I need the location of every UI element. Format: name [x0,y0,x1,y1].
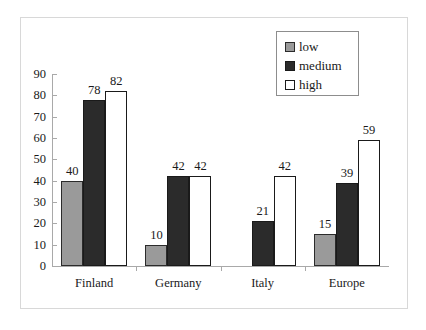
bar-value-label-finland-low: 40 [53,165,91,178]
bar-finland-medium [83,100,105,266]
bar-italy-high [274,176,296,266]
y-tick-label-50: 50 [22,153,46,166]
bar-value-label-finland-high: 82 [97,75,135,88]
bar-value-label-europe-low: 15 [306,218,344,231]
bar-chart-plot-area: 0102030405060708090 40788210424221421539… [0,0,426,330]
x-separator-tick-2 [221,266,222,271]
bar-value-label-germany-high: 42 [181,160,219,173]
bar-italy-medium [252,221,274,266]
legend-label-high: high [299,78,322,91]
bar-value-label-europe-medium: 39 [328,167,366,180]
category-label-germany: Germany [136,277,220,290]
y-tick-label-40: 40 [22,175,46,188]
bar-value-label-germany-low: 10 [137,229,175,242]
y-tick-label-90: 90 [22,68,46,81]
x-separator-tick-3 [305,266,306,271]
y-tick-80 [52,95,57,96]
y-tick-60 [52,138,57,139]
bar-germany-high [189,176,211,266]
y-tick-label-60: 60 [22,132,46,145]
y-tick-40 [52,181,57,182]
legend-label-medium: medium [299,59,342,72]
legend-item-low: low [285,37,358,56]
bar-value-label-italy-high: 42 [266,160,304,173]
bar-germany-medium [167,176,189,266]
bar-finland-high [105,91,127,266]
legend-item-high: high [285,75,358,94]
legend-label-low: low [299,40,319,53]
bar-value-label-italy-medium: 21 [244,205,282,218]
y-tick-30 [52,202,57,203]
y-tick-label-70: 70 [22,111,46,124]
y-tick-label-0: 0 [22,260,46,273]
x-separator-tick-1 [136,266,137,271]
y-tick-label-30: 30 [22,196,46,209]
bar-germany-low [145,245,167,266]
y-tick-10 [52,245,57,246]
high-swatch-icon [285,80,295,90]
low-swatch-icon [285,42,295,52]
y-tick-label-80: 80 [22,89,46,102]
y-tick-label-10: 10 [22,239,46,252]
bar-europe-low [314,234,336,266]
bar-value-label-europe-high: 59 [350,124,388,137]
y-tick-70 [52,117,57,118]
y-tick-50 [52,159,57,160]
y-tick-20 [52,223,57,224]
y-tick-label-20: 20 [22,217,46,230]
category-label-finland: Finland [52,277,136,290]
y-tick-0 [52,266,57,267]
y-tick-90 [52,74,57,75]
chart-legend: low medium high [276,31,359,96]
medium-swatch-icon [285,61,295,71]
bar-finland-low [61,181,83,266]
category-label-italy: Italy [221,277,305,290]
legend-item-medium: medium [285,56,358,75]
category-label-europe: Europe [305,277,389,290]
bar-europe-high [358,140,380,266]
